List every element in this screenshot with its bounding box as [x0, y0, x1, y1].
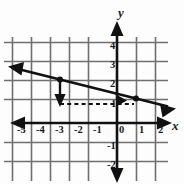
x-axis-label: x: [172, 119, 179, 132]
y-tick-label-3: 3: [110, 60, 115, 71]
plotted-line: [8, 62, 176, 118]
y-tick-label-neg1: -1: [107, 141, 116, 152]
x-axis: [10, 117, 172, 130]
y-tick-label-neg2: -2: [107, 160, 116, 171]
x-tick-label-2: 2: [158, 125, 163, 136]
x-tick-label-1: 1: [139, 125, 144, 136]
vertical-drop-arrow: [54, 80, 65, 107]
y-tick-label-1: 1: [111, 99, 116, 110]
y-axis-label: y: [118, 6, 124, 19]
x-tick-label-neg1: -1: [93, 125, 102, 136]
y-tick-label-2: 2: [110, 79, 115, 90]
point-on-line-right: [133, 96, 139, 102]
x-tick-label-0: 0: [119, 125, 124, 136]
x-tick-label-neg4: -4: [36, 125, 45, 136]
grid-lines: [4, 37, 168, 181]
drop-arrow-head: [54, 94, 65, 107]
point-on-line-left: [57, 77, 63, 83]
graph-figure: 4 3 2 1 -1 -2 -5 -4 -3 -2 -1 0 1 2 y x: [0, 0, 184, 184]
y-axis-arrow-up: [111, 21, 124, 36]
x-tick-label-neg2: -2: [74, 125, 83, 136]
coordinate-plane: [0, 0, 184, 184]
x-tick-label-neg3: -3: [55, 125, 64, 136]
y-tick-label-4: 4: [110, 41, 115, 52]
line-arrow-left: [8, 62, 24, 76]
x-tick-label-neg5: -5: [17, 125, 26, 136]
